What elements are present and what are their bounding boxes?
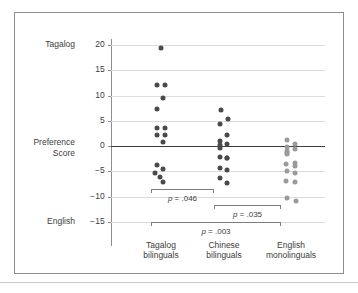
data-point (155, 125, 160, 130)
data-point (155, 132, 160, 137)
data-point (163, 82, 168, 87)
y-tick-label: −15 (79, 216, 105, 226)
y-axis-title-line2: Score (11, 148, 75, 159)
axis-anchor-top: Tagalog (23, 39, 75, 49)
x-category-label: Tagalogbilinguals (143, 240, 178, 261)
y-tick-label: 0 (79, 140, 105, 150)
data-point (293, 163, 298, 168)
data-point (155, 82, 160, 87)
x-category-label-line1: Tagalog (143, 240, 178, 251)
data-point (218, 166, 223, 171)
y-tick-mark (108, 45, 111, 46)
p-value-label: p = .046 (168, 194, 197, 203)
data-point (226, 116, 231, 121)
x-category-label: Englishmonolinguals (266, 240, 316, 261)
significance-bracket (214, 205, 281, 209)
data-point (294, 199, 299, 204)
figure-page: Preference Score Tagalog English p = .04… (0, 0, 358, 293)
y-tick-mark (108, 70, 111, 71)
data-point (161, 179, 166, 184)
x-category-label-line2: bilinguals (206, 250, 241, 261)
x-category-label: Chinesebilinguals (206, 240, 241, 261)
data-point (285, 138, 290, 143)
significance-bracket (151, 189, 214, 193)
data-point (284, 179, 289, 184)
y-tick-label: 15 (79, 64, 105, 74)
p-value-label: p = .035 (233, 210, 262, 219)
y-tick-mark (108, 222, 111, 223)
data-point (219, 107, 224, 112)
y-tick-mark (108, 121, 111, 122)
data-point (225, 156, 230, 161)
data-point (285, 195, 290, 200)
data-point (159, 45, 164, 50)
x-category-label-line1: English (266, 240, 316, 251)
y-tick-label: 20 (79, 39, 105, 49)
data-point (218, 122, 223, 127)
gridline (111, 45, 325, 46)
data-point (225, 133, 230, 138)
y-tick-mark (108, 197, 111, 198)
data-point (161, 166, 166, 171)
data-point (155, 106, 160, 111)
x-category-label-line1: Chinese (206, 240, 241, 251)
y-tick-label: 5 (79, 115, 105, 125)
data-point (284, 162, 289, 167)
y-tick-label: −10 (79, 191, 105, 201)
figure-box: Preference Score Tagalog English p = .04… (14, 12, 344, 274)
y-tick-mark (108, 146, 111, 147)
data-point (293, 180, 298, 185)
p-value-label: p = .003 (201, 227, 230, 236)
y-tick-label: −5 (79, 165, 105, 175)
x-category-label-line2: bilinguals (143, 250, 178, 261)
data-point (155, 163, 160, 168)
data-point (163, 126, 168, 131)
data-point (153, 170, 158, 175)
p-symbol: p (233, 210, 237, 219)
y-tick-mark (108, 171, 111, 172)
data-point (225, 142, 230, 147)
data-point (285, 152, 290, 157)
x-category-label-line2: monolinguals (266, 250, 316, 261)
axis-anchor-bottom: English (23, 216, 75, 226)
y-tick-label: 10 (79, 90, 105, 100)
significance-bracket (151, 222, 281, 226)
data-point (163, 132, 168, 137)
data-point (225, 167, 230, 172)
p-symbol: p (201, 227, 205, 236)
data-point (293, 147, 298, 152)
gridline (111, 96, 325, 97)
data-point (218, 155, 223, 160)
data-point (161, 139, 166, 144)
data-point (218, 146, 223, 151)
y-axis-title: Preference Score (11, 137, 75, 158)
data-point (285, 169, 290, 174)
y-tick-mark (108, 96, 111, 97)
gridline (111, 197, 325, 198)
p-symbol: p (168, 194, 172, 203)
plot-area: p = .046p = .035p = .003 (111, 39, 325, 243)
data-point (225, 181, 230, 186)
data-point (161, 95, 166, 100)
y-axis-title-line1: Preference (11, 137, 75, 148)
data-point (293, 170, 298, 175)
gridline (111, 70, 325, 71)
data-point (218, 176, 223, 181)
